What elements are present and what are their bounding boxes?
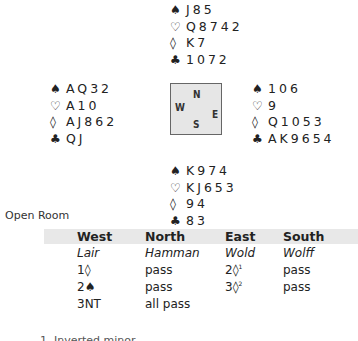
header-south: South — [283, 229, 343, 244]
club-icon: ♣ — [50, 131, 66, 148]
table-row: 1◊ pass 2◊1 pass — [44, 261, 358, 278]
players-row: Lair Hamman Wold Wolff — [44, 244, 358, 261]
compass-south: S — [193, 119, 199, 130]
header-east: East — [225, 229, 283, 244]
header-west: West — [44, 229, 145, 244]
auction-table: West North East South Lair Hamman Wold W… — [44, 229, 358, 312]
table-row: 3NT all pass — [44, 295, 358, 312]
club-icon: ♣ — [252, 131, 268, 148]
footnote-mark: 1 — [239, 263, 243, 270]
compass-west: W — [175, 102, 185, 113]
compass-north: N — [193, 89, 201, 100]
spade-icon: ♠ — [50, 81, 66, 98]
spade-icon: ♠ — [252, 81, 268, 98]
heart-icon: ♡ — [170, 180, 186, 197]
diamond-icon: ◊ — [252, 114, 268, 131]
spade-icon: ♠ — [170, 163, 186, 180]
hand-east: ♠106 ♡9 ◊Q1053 ♣AK9654 — [252, 81, 335, 147]
footnote: 1. Inverted minor — [40, 335, 136, 341]
compass-box: N W E S — [170, 83, 222, 135]
hand-south: ♠K974 ♡KJ653 ◊94 ♣83 — [170, 163, 237, 229]
auction-header: West North East South — [44, 229, 358, 244]
hand-west: ♠AQ32 ♡A10 ◊AJ862 ♣QJ — [50, 81, 117, 147]
heart-icon: ♡ — [252, 98, 268, 115]
club-icon: ♣ — [170, 52, 186, 69]
table-row: 2♠ pass 3◊2 pass — [44, 278, 358, 295]
hand-north: ♠J85 ♡Q8742 ◊K7 ♣1072 — [170, 2, 243, 68]
diamond-icon: ◊ — [170, 35, 186, 52]
club-icon: ♣ — [170, 213, 186, 230]
heart-icon: ♡ — [50, 98, 66, 115]
room-label: Open Room — [5, 209, 69, 222]
heart-icon: ♡ — [170, 19, 186, 36]
diamond-icon: ◊ — [50, 114, 66, 131]
header-north: North — [145, 229, 225, 244]
footnote-mark: 2 — [239, 280, 243, 287]
spade-icon: ♠ — [170, 2, 186, 19]
compass-east: E — [212, 109, 218, 120]
diamond-icon: ◊ — [170, 196, 186, 213]
